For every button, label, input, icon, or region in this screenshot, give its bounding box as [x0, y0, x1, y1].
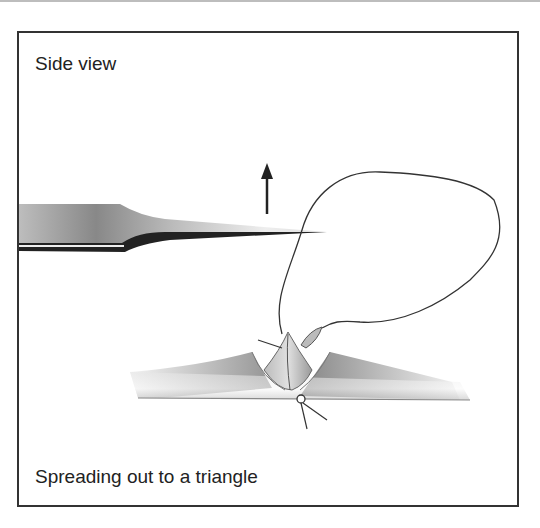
illustration [0, 0, 540, 528]
forceps-icon [19, 204, 327, 252]
suture-loop [279, 172, 500, 334]
arrow-up-icon [261, 163, 273, 214]
suture-knot-icon [297, 395, 327, 429]
